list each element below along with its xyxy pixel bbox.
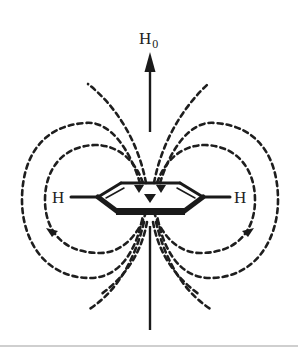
hydrogen-right-label: H	[234, 188, 246, 207]
hydrogen-right: H	[203, 188, 246, 207]
induced-field-lines-left	[22, 123, 145, 278]
open-field-lines-top	[88, 84, 208, 183]
hydrogen-left: H	[52, 188, 98, 207]
induced-field-lines-right	[155, 123, 278, 278]
hydrogen-left-label: H	[52, 188, 64, 207]
field-label: H0	[139, 29, 158, 51]
benzene-ring-current-diagram: H0	[0, 0, 298, 347]
applied-field-arrow	[145, 52, 156, 330]
